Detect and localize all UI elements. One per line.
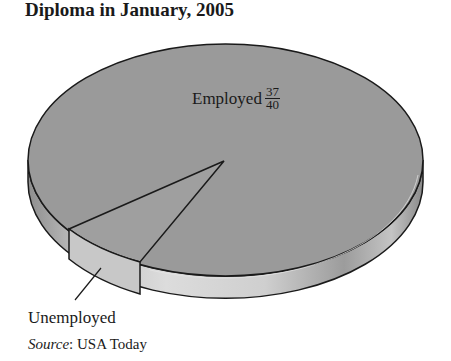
- pie-chart: [0, 0, 451, 361]
- label-employed: Employed 37 40: [192, 86, 280, 111]
- source-value: : USA Today: [69, 336, 147, 352]
- label-unemployed: Unemployed: [28, 308, 116, 328]
- source-prefix: Source: [28, 336, 69, 352]
- employed-denominator: 40: [266, 99, 279, 111]
- label-employed-text: Employed: [192, 89, 262, 109]
- employed-fraction: 37 40: [265, 86, 280, 111]
- source-note: Source: USA Today: [28, 336, 147, 353]
